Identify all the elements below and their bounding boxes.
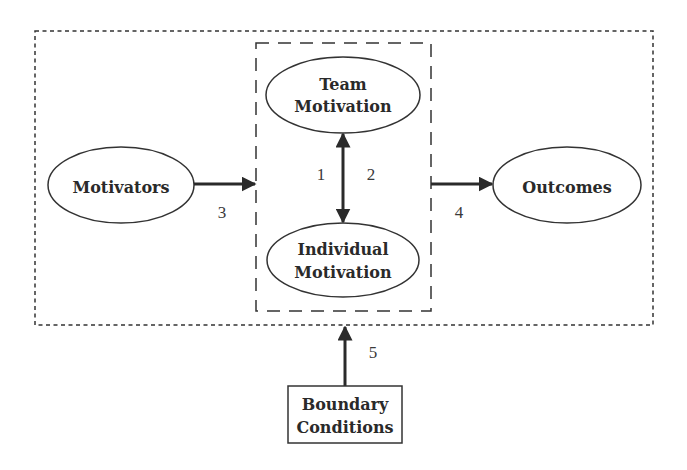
individual-motivation-line2: Motivation (294, 263, 392, 282)
boundary-conditions-line1: Boundary (302, 395, 389, 414)
edge-label-4: 4 (455, 203, 464, 222)
team-motivation-line2: Motivation (294, 97, 392, 116)
node-outcomes: Outcomes (493, 147, 641, 223)
edge-label-5: 5 (369, 343, 378, 362)
individual-motivation-line1: Individual (297, 240, 388, 259)
node-motivators: Motivators (48, 147, 194, 223)
team-motivation-line1: Team (319, 75, 367, 94)
outcomes-label: Outcomes (522, 178, 612, 197)
node-individual-motivation: Individual Motivation (267, 223, 419, 297)
motivators-label: Motivators (72, 178, 169, 197)
node-team-motivation: Team Motivation (266, 57, 420, 133)
motivation-diagram: Team Motivation Individual Motivation 1 … (0, 0, 687, 470)
edge-label-3: 3 (218, 203, 227, 222)
edge-label-2: 2 (367, 165, 376, 184)
node-boundary-conditions: Boundary Conditions (288, 386, 402, 443)
edge-label-1: 1 (317, 165, 326, 184)
boundary-conditions-line2: Conditions (296, 418, 393, 437)
